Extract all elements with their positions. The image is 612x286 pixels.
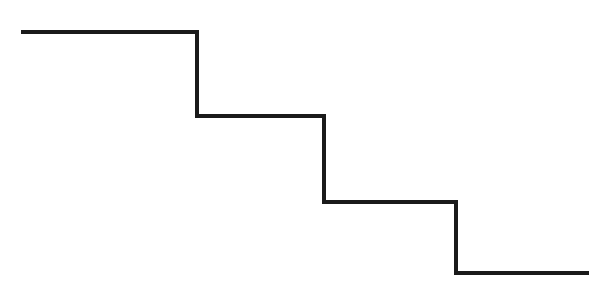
staircase-diagram [0, 0, 612, 286]
staircase-step-line [21, 32, 589, 273]
